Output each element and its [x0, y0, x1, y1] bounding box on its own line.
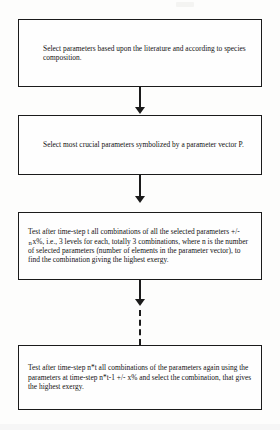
process-box-3-text-part-1: Test after time-step t all combinations …: [28, 227, 240, 236]
connector-line-3-dashed: [139, 310, 141, 345]
process-box-select-crucial-parameters: Select most crucial parameters symbolize…: [18, 115, 262, 175]
process-box-select-parameters: Select parameters based upon the literat…: [18, 19, 262, 87]
process-box-2-text: Select most crucial parameters symbolize…: [19, 140, 261, 149]
process-box-3-subscript-n: n: [28, 239, 33, 246]
connector-arrowhead-1: [135, 107, 145, 114]
process-box-test-time-step-t: Test after time-step t all combinations …: [18, 212, 262, 280]
process-box-3-text: Test after time-step t all combinations …: [19, 227, 261, 265]
connector-arrowhead-2: [135, 196, 145, 203]
process-box-4-text: Test after time-step n*t all combination…: [19, 363, 261, 391]
process-box-1-text: Select parameters based upon the literat…: [19, 44, 261, 63]
connector-line-3-solid: [139, 280, 141, 300]
connector-arrowhead-3: [135, 299, 145, 306]
process-box-test-time-step-nt: Test after time-step n*t all combination…: [18, 345, 262, 410]
flowchart-diagram: Select parameters based upon the literat…: [0, 0, 280, 430]
scan-artifact-bottom: [0, 424, 280, 430]
process-box-3-text-part-2: x%, i.e., 3 levels for each, totally 3 c…: [28, 237, 248, 265]
connector-line-1: [139, 87, 141, 108]
scan-artifact-top: [176, 2, 194, 7]
connector-line-2: [139, 175, 141, 197]
